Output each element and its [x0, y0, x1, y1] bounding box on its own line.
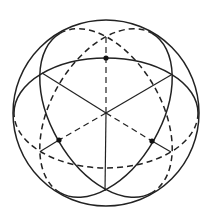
point-lower-right	[149, 138, 154, 143]
great-circle-tilted-left-front-arc	[12, 33, 152, 220]
radius-lower-right-visible	[152, 141, 171, 152]
radius-lower-right-hidden	[106, 113, 152, 141]
radius-upper-right	[106, 75, 171, 113]
point-lower-left	[56, 137, 61, 142]
radius-upper-left	[42, 73, 106, 113]
sphere-diagram	[0, 0, 208, 223]
great-circle-tilted-right-back-arc	[12, 6, 152, 193]
sphere-diagram-canvas	[0, 0, 208, 223]
great-circle-tilted-right-front-arc	[60, 33, 200, 220]
radius-lower-left-visible	[41, 140, 59, 151]
great-circle-horizontal-front-arc	[14, 58, 198, 113]
point-top	[103, 55, 108, 60]
radius-bottom	[105, 113, 106, 191]
radius-lower-left-hidden	[59, 113, 106, 140]
